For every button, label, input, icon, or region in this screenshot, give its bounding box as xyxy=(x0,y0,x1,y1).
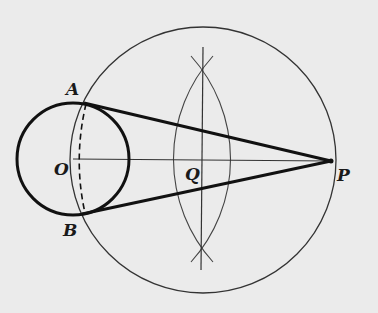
label-O: O xyxy=(54,161,69,178)
label-P: P xyxy=(337,167,350,184)
point-P-dot xyxy=(329,159,334,164)
label-B: B xyxy=(63,222,77,239)
label-A: A xyxy=(66,81,79,98)
label-Q: Q xyxy=(185,166,200,183)
bisector-arc-from-O xyxy=(191,56,231,262)
chord-AB-dashed xyxy=(79,104,86,213)
tangent-PB xyxy=(82,161,331,214)
geometry-figure xyxy=(0,0,378,313)
diagram-canvas: A O B Q P xyxy=(0,0,378,313)
perpendicular-bisector xyxy=(201,47,203,270)
bisector-arc-from-P xyxy=(173,56,213,262)
